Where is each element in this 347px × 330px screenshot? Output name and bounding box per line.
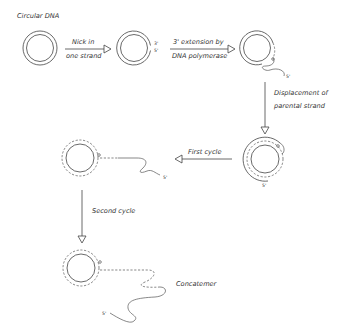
step-label-nick-2: one strand [66, 52, 102, 60]
step-label-first-cycle: First cycle [188, 148, 222, 156]
step-label-extension-1: 3' extension by [173, 38, 224, 46]
rolling-circle-diagram: Circular DNA Nick in one strand 3' 5' 3'… [0, 0, 347, 330]
step-label-displacement-1: Displacement of [274, 89, 329, 97]
concatemer-5prime-label: 5' [102, 311, 106, 316]
product-label-concatemer: Concatemer [176, 280, 218, 288]
circular-dna-intact [23, 31, 57, 65]
circular-dna-nicked [117, 31, 151, 65]
step-label-displacement-2: parental strand [273, 102, 326, 110]
arrow-second-cycle [78, 190, 86, 243]
extension-5prime-label: 5' [286, 74, 290, 79]
circular-dna-extending [240, 31, 285, 76]
nick-5prime-label: 5' [154, 48, 158, 53]
circular-dna-concatemer [63, 250, 165, 322]
arrow-first-cycle [175, 155, 232, 163]
nick-3prime-label: 3' [154, 41, 158, 46]
circular-dna-first-lap [243, 137, 284, 181]
first-cycle-5prime-label: 5' [163, 175, 167, 180]
first-lap-5prime-label: 5' [262, 183, 266, 188]
diagram-title: Circular DNA [17, 12, 60, 20]
step-label-extension-2: DNA polymerase [172, 52, 227, 60]
arrow-displacement [261, 82, 269, 134]
step-label-nick-1: Nick in [72, 38, 94, 46]
circular-dna-first-cycle [62, 140, 160, 176]
step-label-second-cycle: Second cycle [92, 207, 135, 215]
